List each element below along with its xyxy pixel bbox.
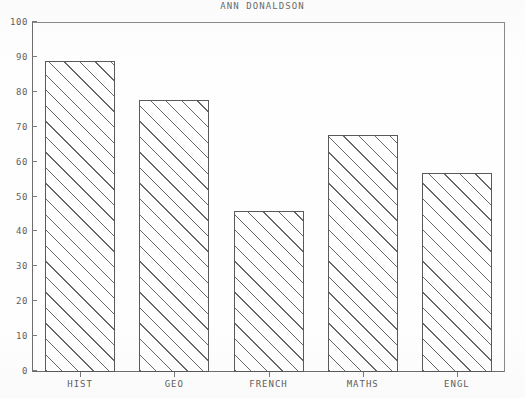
bar-engl (422, 173, 492, 372)
x-axis-tick-label-french: FRENCH (221, 377, 315, 391)
x-axis-tick-label-engl: ENGL (410, 377, 504, 391)
y-axis-tick-label: 30 (0, 261, 30, 271)
y-axis-tick-label: 60 (0, 157, 30, 167)
y-axis-tick-label: 50 (0, 192, 30, 202)
bar-series (33, 23, 504, 372)
chart-title: ANN DONALDSON (0, 1, 525, 11)
x-axis: HISTGEOFRENCHMATHSENGL (33, 377, 504, 393)
y-axis-tick-label: 10 (0, 331, 30, 341)
bar-geo (139, 100, 209, 372)
x-axis-tick-label-hist: HIST (33, 377, 127, 391)
y-axis-tick-label: 40 (0, 226, 30, 236)
y-axis-tick-label: 90 (0, 52, 30, 62)
y-axis-tick-label: 80 (0, 87, 30, 97)
y-axis-tick-label: 70 (0, 122, 30, 132)
bar-french (234, 211, 304, 372)
bar-hist (45, 61, 115, 372)
x-axis-tick-label-geo: GEO (127, 377, 221, 391)
y-axis-tick-label: 20 (0, 296, 30, 306)
bar-maths (328, 135, 398, 372)
y-axis-tick-mark (32, 21, 37, 22)
y-axis-tick-label: 0 (0, 366, 30, 376)
y-axis-tick-label: 100 (0, 17, 30, 27)
y-axis: 1009080706050403020100 (0, 22, 30, 372)
x-axis-tick-label-maths: MATHS (316, 377, 410, 391)
chart-screenshot: ANN DONALDSON 1009080706050403020100 HIS… (0, 0, 525, 398)
